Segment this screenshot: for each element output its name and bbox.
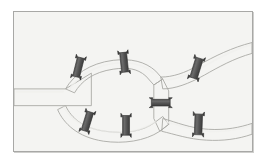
diagram-panel [13, 11, 253, 152]
clip-lower-arc-proximal[interactable] [79, 108, 96, 134]
vessel-network-canvas [14, 12, 252, 151]
clip-lower-right-branch[interactable] [192, 112, 204, 138]
clip-group-all [71, 50, 206, 138]
vessel-highlight-lower-arc [64, 107, 156, 133]
clip-upper-arc-proximal[interactable] [71, 54, 87, 80]
clip-lower-arc-distal[interactable] [121, 113, 131, 137]
figure-root [0, 0, 267, 165]
clip-central-connector[interactable] [149, 98, 172, 108]
clip-upper-right-branch[interactable] [187, 55, 205, 82]
vessel-network-group [14, 43, 252, 143]
